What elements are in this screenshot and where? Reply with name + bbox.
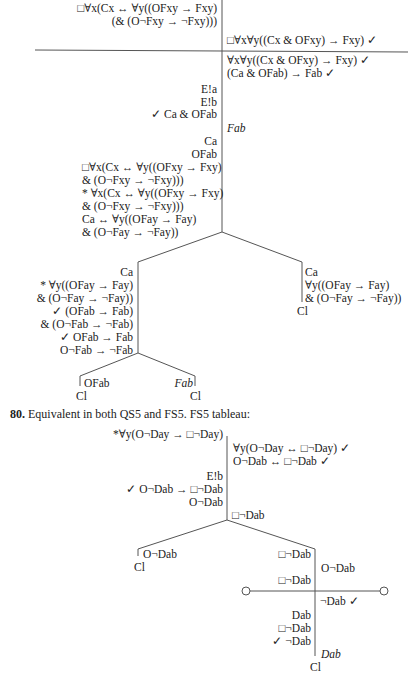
formula-line: □∀x(Cx ↔ ∀y((OFxy → Fxy)	[77, 2, 217, 15]
formula-line: □¬Dab	[278, 574, 311, 587]
closed-marker: Cl	[76, 390, 87, 403]
formula-line: & (O¬Fay → ¬Fay))	[305, 292, 401, 305]
formula-line: ✓ ¬Dab	[272, 635, 311, 648]
closed-marker: Cl	[190, 390, 201, 403]
formula-line: & (O¬Fxy → ¬Fxy)))	[82, 174, 183, 187]
formula-line: OFab	[84, 377, 110, 390]
formula-line: & (O¬Fay → ¬Fay))	[82, 226, 178, 239]
formula-line: & (O¬Fab → ¬Fab)	[40, 318, 133, 331]
formula-line: Dab	[321, 648, 341, 661]
formula-line: OFab	[191, 148, 217, 161]
formula-line: * ∀y((OFay → Fay)	[40, 279, 133, 292]
formula-line: ✓ Ca & OFab	[151, 108, 217, 121]
formula-line: □¬Dab	[278, 548, 311, 561]
item-80-paragraph: 80. Equivalent in both QS5 and FS5. FS5 …	[10, 408, 250, 421]
formula-line: O¬Fab → ¬Fab	[60, 344, 133, 357]
formula-line: Dab	[292, 609, 311, 622]
formula-line: Ca	[305, 266, 318, 279]
formula-line: * ∀x(Cx ↔ ∀y((OFxy → Fxy)	[82, 187, 223, 200]
formula-line: Fab	[174, 377, 193, 390]
formula-line: (Ca & OFab) → Fab ✓	[227, 67, 335, 80]
closed-marker: Cl	[134, 561, 145, 574]
formula-line: ✓ (OFab → Fab)	[52, 305, 133, 318]
formula-line: □∀x∀y((Cx & OFxy) → Fxy) ✓	[227, 34, 377, 47]
formula-line: Ca ↔ ∀y((OFay → Fay)	[82, 213, 196, 226]
item-text: Equivalent in both QS5 and FS5. FS5 tabl…	[28, 407, 250, 421]
formula-line: (& (O¬Fxy → ¬Fxy)))	[112, 15, 217, 28]
item-number: 80.	[10, 407, 25, 421]
formula-line: E!a	[201, 83, 217, 96]
formula-line: & (O¬Fay → ¬Fay))	[37, 292, 133, 305]
formula-line: ∀y((OFay → Fay)	[305, 279, 389, 292]
formula-line: ✓ OFab → Fab	[60, 331, 133, 344]
formula-line: ∀y(O¬Day ↔ □¬Day) ✓	[233, 442, 350, 455]
closed-marker: Cl	[297, 305, 308, 318]
formula-line: O¬Dab	[143, 548, 177, 561]
formula-line: O¬Dab	[189, 496, 223, 509]
formula-line: □¬Dab	[278, 622, 311, 635]
formula-line: Ca	[204, 135, 217, 148]
formula-line: Ca	[120, 266, 133, 279]
closed-marker: Cl	[310, 661, 321, 674]
formula-line: □∀x(Cx ↔ ∀y((OFxy → Fxy)	[82, 161, 222, 174]
formula-line: & (O¬Fxy → ¬Fxy)))	[82, 200, 183, 213]
formula-line: ∀x∀y((Cx & OFxy) → Fxy) ✓	[227, 54, 370, 67]
formula-line: ¬Dab ✓	[320, 595, 359, 608]
formula-line: E!b	[206, 470, 223, 483]
formula-line: O¬Dab ↔ □¬Dab ✓	[233, 455, 330, 468]
formula-line: Fab	[227, 122, 246, 135]
formula-line: *∀y(O¬Day → □¬Day)	[113, 428, 223, 441]
formula-line: O¬Dab	[321, 562, 355, 575]
formula-line: ✓ O¬Dab → □¬Dab	[126, 483, 223, 496]
formula-line: □¬Dab	[232, 509, 265, 522]
